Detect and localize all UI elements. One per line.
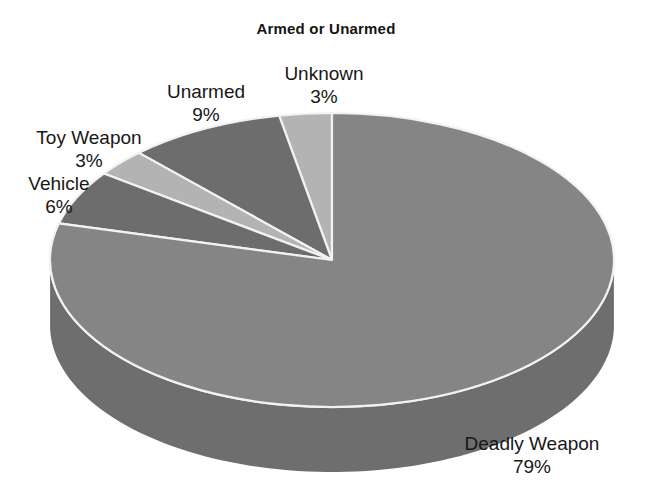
slice-label-toy-weapon: Toy Weapon 3% [14, 126, 164, 172]
slice-label-deadly-weapon: Deadly Weapon 79% [432, 432, 632, 478]
slice-label-unarmed: Unarmed 9% [140, 80, 272, 126]
slice-label-toy-weapon-name: Toy Weapon [14, 126, 164, 149]
slice-label-vehicle-name: Vehicle [0, 172, 118, 195]
slice-label-unknown-percent: 3% [258, 85, 390, 108]
slice-label-deadly-weapon-name: Deadly Weapon [432, 432, 632, 455]
slice-label-unarmed-name: Unarmed [140, 80, 272, 103]
pie-chart-figure: Armed or Unarmed Unknown 3% Unarmed 9% T… [0, 0, 652, 503]
slice-label-deadly-weapon-percent: 79% [432, 455, 632, 478]
slice-label-vehicle: Vehicle 6% [0, 172, 118, 218]
slice-label-unarmed-percent: 9% [140, 103, 272, 126]
slice-label-toy-weapon-percent: 3% [14, 149, 164, 172]
slice-label-vehicle-percent: 6% [0, 195, 118, 218]
slice-label-unknown: Unknown 3% [258, 62, 390, 108]
slice-label-unknown-name: Unknown [258, 62, 390, 85]
